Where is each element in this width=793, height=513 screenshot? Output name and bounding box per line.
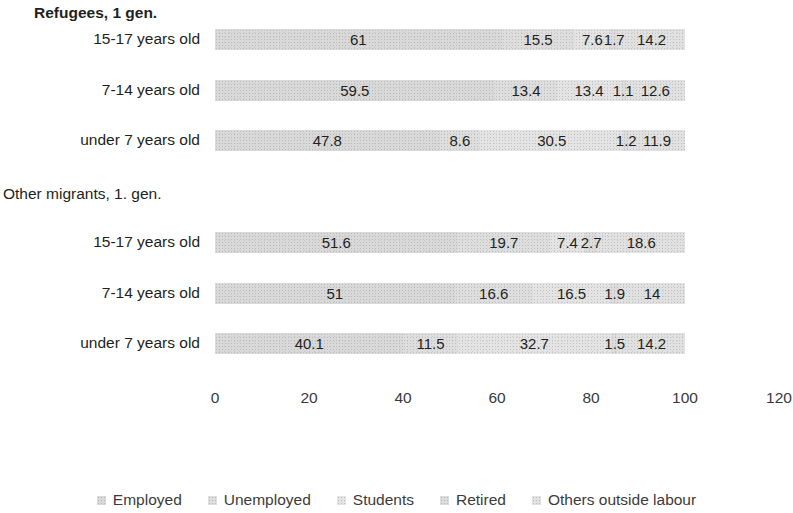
row-label: 7-14 years old — [0, 280, 200, 306]
x-axis-tick-0: 0 — [191, 386, 239, 410]
chart-row: 7-14 years old59.513.413.41.112.6 — [0, 77, 793, 103]
stacked-bar: 59.513.413.41.112.6 — [215, 80, 685, 101]
segment-value-label: 1.5 — [604, 335, 625, 352]
segment-value-label: 51.6 — [322, 234, 351, 251]
segment-value-label: 11.5 — [416, 335, 444, 352]
legend-item-retired[interactable]: Retired — [440, 491, 506, 509]
legend-swatch-icon — [97, 496, 106, 505]
x-axis-tick-40: 40 — [379, 386, 427, 410]
segment-value-label: 7.6 — [582, 31, 603, 48]
bar-segment-unemployed: 19.7 — [458, 232, 551, 253]
segment-value-label: 13.4 — [512, 82, 541, 99]
bar-segment-students: 13.4 — [558, 80, 621, 101]
bar-segment-retired: 1.5 — [611, 333, 618, 354]
legend-swatch-icon — [440, 496, 449, 505]
segment-value-label: 61 — [350, 31, 367, 48]
segment-value-label: 14.2 — [637, 335, 666, 352]
bar-segment-students: 30.5 — [480, 130, 623, 151]
row-label: 15-17 years old — [0, 26, 200, 52]
x-axis-tick-100: 100 — [661, 386, 709, 410]
segment-value-label: 2.7 — [581, 234, 602, 251]
group-heading-other-migrants: Other migrants, 1. gen. — [0, 183, 205, 205]
legend-swatch-icon — [337, 496, 346, 505]
bar-segment-others-outside-labour: 14 — [619, 283, 685, 304]
row-label: 15-17 years old — [0, 229, 200, 255]
bar-segment-unemployed: 15.5 — [502, 29, 575, 50]
stacked-bar: 40.111.532.71.514.2 — [215, 333, 685, 354]
group-heading-refugees: Refugees, 1 gen. — [0, 2, 205, 24]
chart-row: 15-17 years old51.619.77.42.718.6 — [0, 229, 793, 255]
legend-item-students[interactable]: Students — [337, 491, 414, 509]
legend-label: Students — [353, 491, 414, 509]
segment-value-label: 1.7 — [604, 31, 625, 48]
bar-segment-students: 16.5 — [533, 283, 611, 304]
legend-swatch-icon — [208, 496, 217, 505]
row-label: under 7 years old — [0, 330, 200, 356]
legend-item-employed[interactable]: Employed — [97, 491, 182, 509]
segment-value-label: 8.6 — [449, 132, 470, 149]
bar-segment-employed: 51.6 — [215, 232, 458, 253]
segment-value-label: 59.5 — [340, 82, 369, 99]
segment-value-label: 16.6 — [479, 285, 508, 302]
legend-label: Others outside labour — [548, 491, 696, 509]
chart-row: 15-17 years old6115.57.61.714.2 — [0, 26, 793, 52]
segment-value-label: 19.7 — [489, 234, 518, 251]
bar-segment-employed: 47.8 — [215, 130, 440, 151]
bar-segment-retired: 1.1 — [621, 80, 626, 101]
bar-segment-unemployed: 16.6 — [455, 283, 533, 304]
segment-value-label: 14 — [644, 285, 661, 302]
segment-value-label: 1.2 — [616, 132, 637, 149]
segment-value-label: 14.2 — [637, 31, 666, 48]
bar-segment-others-outside-labour: 14.2 — [618, 29, 685, 50]
bar-segment-employed: 40.1 — [215, 333, 403, 354]
stacked-bar: 51.619.77.42.718.6 — [215, 232, 685, 253]
segment-value-label: 11.9 — [643, 132, 671, 149]
segment-value-label: 1.1 — [613, 82, 634, 99]
legend-label: Employed — [113, 491, 182, 509]
x-axis-tick-120: 120 — [755, 386, 793, 410]
segment-value-label: 12.6 — [641, 82, 670, 99]
stacked-bar: 47.88.630.51.211.9 — [215, 130, 685, 151]
bar-segment-retired: 1.7 — [610, 29, 618, 50]
bar-segment-retired: 1.2 — [623, 130, 629, 151]
x-axis: 020406080100120 — [0, 386, 793, 410]
stacked-bar: 5116.616.51.914 — [215, 283, 685, 304]
bar-segment-retired: 2.7 — [585, 232, 598, 253]
legend-swatch-icon — [532, 496, 541, 505]
bar-segment-others-outside-labour: 18.6 — [598, 232, 685, 253]
segment-value-label: 1.9 — [604, 285, 625, 302]
legend-label: Retired — [456, 491, 506, 509]
bar-segment-employed: 61 — [215, 29, 502, 50]
row-label: 7-14 years old — [0, 77, 200, 103]
bar-segment-unemployed: 11.5 — [403, 333, 457, 354]
segment-value-label: 40.1 — [295, 335, 324, 352]
bar-segment-employed: 51 — [215, 283, 455, 304]
chart-row: under 7 years old40.111.532.71.514.2 — [0, 330, 793, 356]
chart-row: 7-14 years old5116.616.51.914 — [0, 280, 793, 306]
segment-value-label: 15.5 — [524, 31, 553, 48]
stacked-bar: 6115.57.61.714.2 — [215, 29, 685, 50]
x-axis-tick-80: 80 — [567, 386, 615, 410]
bar-segment-retired: 1.9 — [610, 283, 619, 304]
x-axis-tick-60: 60 — [473, 386, 521, 410]
bar-segment-unemployed: 13.4 — [495, 80, 558, 101]
chart-row: under 7 years old47.88.630.51.211.9 — [0, 127, 793, 153]
bar-segment-others-outside-labour: 14.2 — [618, 333, 685, 354]
legend-item-others-outside-labour[interactable]: Others outside labour — [532, 491, 696, 509]
x-axis-tick-20: 20 — [285, 386, 333, 410]
segment-value-label: 47.8 — [313, 132, 342, 149]
bar-segment-students: 32.7 — [458, 333, 612, 354]
bar-segment-students: 7.4 — [550, 232, 585, 253]
segment-value-label: 7.4 — [557, 234, 578, 251]
segment-value-label: 16.5 — [557, 285, 586, 302]
row-label: under 7 years old — [0, 127, 200, 153]
legend-item-unemployed[interactable]: Unemployed — [208, 491, 311, 509]
stacked-bar-chart: Refugees, 1 gen. 15-17 years old6115.57.… — [0, 0, 793, 513]
segment-value-label: 30.5 — [537, 132, 566, 149]
bar-segment-others-outside-labour: 12.6 — [626, 80, 685, 101]
segment-value-label: 32.7 — [520, 335, 549, 352]
segment-value-label: 51 — [327, 285, 344, 302]
legend-label: Unemployed — [224, 491, 311, 509]
bar-segment-employed: 59.5 — [215, 80, 495, 101]
bar-segment-others-outside-labour: 11.9 — [629, 130, 685, 151]
